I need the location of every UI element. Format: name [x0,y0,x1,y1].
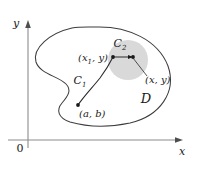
y-axis-label: y [12,17,20,30]
curve-c1-label-subscript: 1 [82,81,86,89]
curve-c2-label-subscript: 2 [121,44,127,52]
end-point-label: (x, y) [145,74,171,85]
curve-c2-label: C2 [114,37,127,52]
curve-c1-label: C1 [74,74,87,89]
origin-label: 0 [17,142,24,155]
intermediate-point-label-suffix: , y) [92,52,108,63]
y-axis-arrowhead [25,20,31,28]
start-point-label: (a, b) [79,108,106,119]
x-axis-label: x [179,145,186,158]
figure-canvas: y x 0 C1 C2 (a, b) (x1, y) [0,0,198,176]
start-point-marker [76,103,80,107]
intermediate-point-label: (x1, y) [78,52,108,66]
x-axis-arrowhead [175,137,183,143]
intermediate-point-marker [111,55,115,59]
vector-field-region-figure: y x 0 C1 C2 (a, b) (x1, y) [0,0,198,176]
intermediate-point-label-prefix: (x [78,52,88,63]
region-d-label: D [140,91,152,106]
